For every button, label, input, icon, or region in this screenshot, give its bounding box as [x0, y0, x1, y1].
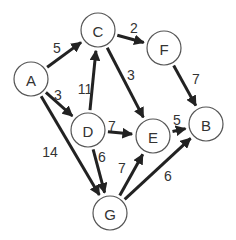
- arrow-icon: [107, 48, 143, 118]
- edge-weight-label: 11: [78, 81, 93, 97]
- edge-weight-label: 5: [53, 40, 61, 56]
- edge-weight-label: 7: [108, 118, 116, 134]
- edge-C-E: [107, 48, 143, 118]
- node-D: D: [71, 113, 105, 147]
- edge-weight-label: 3: [54, 87, 62, 103]
- node-C: C: [81, 13, 115, 47]
- edge-weight-label: 14: [42, 144, 58, 160]
- arrow-icon: [117, 35, 143, 42]
- node-E: E: [136, 119, 170, 153]
- edge-weight-label: 6: [98, 149, 106, 165]
- node-label: D: [83, 123, 94, 140]
- node-label: B: [201, 117, 211, 134]
- edge-weight-label: 3: [127, 67, 135, 83]
- node-label: F: [159, 41, 168, 58]
- nodes-layer: ACFDEBG: [14, 13, 223, 230]
- node-F: F: [147, 31, 181, 65]
- edge-weight-label: 7: [192, 71, 200, 87]
- node-label: E: [148, 129, 158, 146]
- edge-weight-label: 5: [173, 112, 181, 128]
- arrow-icon: [173, 129, 186, 132]
- edge-E-B: [173, 129, 186, 132]
- node-label: G: [104, 206, 116, 223]
- node-A: A: [14, 62, 48, 96]
- edge-weight-label: 7: [118, 160, 126, 176]
- node-label: C: [93, 23, 104, 40]
- node-G: G: [93, 196, 127, 230]
- weighted-directed-graph: 53141123775676 ACFDEBG: [0, 0, 236, 240]
- node-B: B: [189, 107, 223, 141]
- node-label: A: [26, 72, 36, 89]
- edge-C-F: [117, 35, 143, 42]
- edge-weight-label: 6: [164, 168, 172, 184]
- edge-weight-label: 2: [130, 20, 138, 36]
